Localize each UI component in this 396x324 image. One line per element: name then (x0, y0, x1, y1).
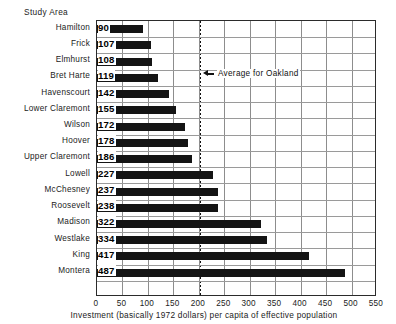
gridline-vertical (352, 21, 353, 295)
x-tick-label: 200 (191, 299, 205, 308)
bar-value-label: 178 (98, 135, 116, 146)
category-label: McChesney (45, 185, 90, 194)
average-annotation-label: Average for Oakland (217, 69, 300, 78)
x-tick-label: 0 (94, 299, 99, 308)
bar-value-label: 107 (98, 38, 116, 49)
category-label: Lower Claremont (24, 104, 90, 113)
bar-value-label: 237 (98, 184, 116, 195)
gridline-vertical (326, 21, 327, 295)
x-tick-label: 150 (165, 299, 179, 308)
category-label: Roosevelt (51, 201, 90, 210)
bar-value-label: 227 (98, 168, 116, 179)
category-label: Madison (57, 217, 90, 226)
bar-value-label: 238 (98, 200, 116, 211)
x-tick-label: 300 (242, 299, 256, 308)
x-tick-label: 450 (318, 299, 332, 308)
category-label: Hoover (62, 136, 90, 145)
chart-title: Study Area (24, 7, 68, 17)
category-label: Montera (58, 266, 90, 275)
x-tick-label: 550 (369, 299, 383, 308)
x-tick-label: 400 (292, 299, 306, 308)
bar-value-label: 119 (98, 70, 115, 81)
x-axis-ticks: 050100150200250300350400450500550 (96, 299, 376, 310)
bar-value-label: 90 (98, 22, 110, 33)
x-tick-label: 500 (343, 299, 357, 308)
gridline-horizontal (97, 118, 375, 119)
bar (97, 220, 261, 228)
gridline-horizontal (97, 216, 375, 217)
bar-value-label: 155 (98, 103, 116, 114)
bar (97, 236, 267, 244)
gridline-horizontal (97, 53, 375, 54)
x-axis-label: Investment (basically 1972 dollars) per … (0, 310, 396, 320)
category-label: Westlake (54, 234, 90, 243)
gridline-horizontal (97, 151, 375, 152)
gridline-horizontal (97, 135, 375, 136)
bar-value-label: 142 (98, 87, 116, 98)
bar-value-label: 417 (98, 249, 116, 260)
category-label: Lowell (65, 169, 90, 178)
x-tick-label: 350 (267, 299, 281, 308)
gridline-horizontal (97, 281, 375, 282)
category-label: King (73, 250, 90, 259)
bar (97, 252, 309, 260)
category-label: Havenscourt (41, 88, 90, 97)
gridline-horizontal (97, 183, 375, 184)
category-label: Bret Harte (50, 71, 90, 80)
gridline-horizontal (97, 232, 375, 233)
category-label: Upper Claremont (24, 152, 90, 161)
gridline-horizontal (97, 265, 375, 266)
left-arrow-icon (203, 70, 214, 77)
x-tick-label: 100 (140, 299, 154, 308)
bar-value-label: 108 (98, 54, 116, 65)
bar-value-label: 334 (98, 233, 116, 244)
gridline-horizontal (97, 102, 375, 103)
category-label: Frick (71, 39, 90, 48)
bar-chart: Study Area HamiltonFrickElmhurstBret Har… (0, 0, 396, 324)
category-label: Wilson (64, 120, 90, 129)
category-label: Elmhurst (56, 55, 90, 64)
category-label: Hamilton (56, 23, 90, 32)
x-tick-label: 50 (117, 299, 127, 308)
bar-value-label: 186 (98, 151, 116, 162)
average-annotation: Average for Oakland (203, 69, 300, 78)
gridline-horizontal (97, 200, 375, 201)
x-tick-label: 250 (216, 299, 230, 308)
bar (97, 269, 345, 277)
bar-value-label: 487 (98, 265, 116, 276)
gridline-horizontal (97, 167, 375, 168)
gridline-horizontal (97, 248, 375, 249)
plot-area (96, 20, 376, 296)
gridline-horizontal (97, 37, 375, 38)
bar-value-label: 322 (98, 216, 116, 227)
bar-value-label: 172 (98, 119, 116, 130)
gridline-horizontal (97, 86, 375, 87)
